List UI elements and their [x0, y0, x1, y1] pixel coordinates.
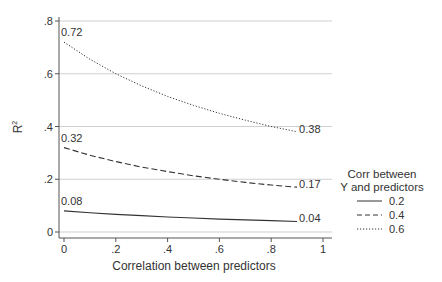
line-chart: 0.2.4.6.80.2.4.6.81 0.080.040.320.170.72… — [0, 0, 442, 282]
x-tick-label: 1 — [320, 243, 326, 255]
x-tick-label: .2 — [111, 243, 120, 255]
end-value-label: 0.17 — [299, 178, 320, 190]
x-tick-label: .8 — [267, 243, 276, 255]
point-labels: 0.080.040.320.170.720.38 — [61, 26, 321, 224]
y-tick-label: .2 — [44, 173, 53, 185]
series-line-0.4 — [64, 148, 297, 188]
y-tick-label: .8 — [44, 15, 53, 27]
end-value-label: 0.04 — [299, 212, 320, 224]
x-tick-label: 0 — [61, 243, 67, 255]
y-axis-title-sup: 2 — [11, 121, 18, 125]
series-lines — [64, 42, 297, 221]
legend-title-line2: Y and predictors — [340, 181, 424, 193]
legend-label: 0.2 — [389, 195, 404, 207]
y-axis-title: R2 — [11, 121, 25, 134]
x-tick-label: .6 — [215, 243, 224, 255]
axes: 0.2.4.6.80.2.4.6.81 — [44, 15, 332, 255]
y-axis-title-base: R — [11, 124, 25, 133]
legend-label: 0.6 — [389, 223, 404, 235]
legend-title-line1: Corr between — [347, 168, 416, 180]
y-tick-label: .4 — [44, 121, 53, 133]
y-tick-label: 0 — [47, 226, 53, 238]
legend: Corr between Y and predictors 0.20.40.6 — [340, 168, 424, 235]
y-tick-label: .6 — [44, 68, 53, 80]
start-value-label: 0.32 — [61, 132, 82, 144]
series-line-0.2 — [64, 211, 297, 222]
x-axis-title: Correlation between predictors — [112, 259, 275, 273]
legend-label: 0.4 — [389, 209, 404, 221]
start-value-label: 0.72 — [61, 26, 82, 38]
end-value-label: 0.38 — [299, 123, 320, 135]
x-tick-label: .4 — [163, 243, 172, 255]
start-value-label: 0.08 — [61, 195, 82, 207]
gridlines — [59, 21, 332, 232]
svg-text:R2: R2 — [11, 121, 25, 134]
series-line-0.6 — [64, 42, 297, 132]
